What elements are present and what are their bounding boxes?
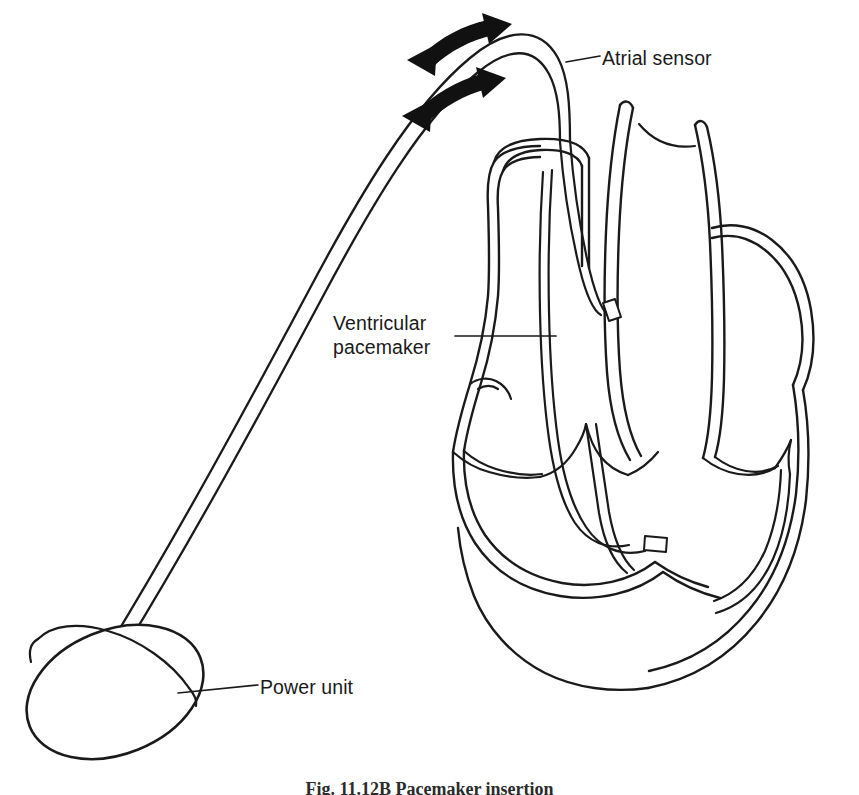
heart-apex [458,528,720,690]
label-ventricular-pacemaker-line2: pacemaker [333,336,430,358]
label-ventricular-pacemaker: Ventricularpacemaker [333,311,430,359]
left-ventricle [648,385,808,688]
pacemaker-line-art [0,0,859,795]
ventricular-electrode-tip [644,536,667,552]
figure-caption: Fig. 11.12B Pacemaker insertion [0,779,859,795]
pacemaker-figure: Atrial sensor Ventricularpacemaker Power… [0,0,859,795]
pulmonary-artery [695,121,724,458]
ventricular-lead-segment [540,170,645,553]
label-atrial-sensor: Atrial sensor [602,46,712,70]
aortic-arch-notch [639,124,695,147]
insertion-arrow-lower [402,67,506,132]
label-power-unit: Power unit [260,675,353,699]
right-atrium-wall [453,146,540,452]
mitral-valve [703,440,791,475]
aorta [605,102,641,460]
left-atrium [712,225,813,390]
label-ventricular-pacemaker-line1: Ventricular [333,312,426,334]
atrial-lead-segment [560,140,611,318]
leader-atrial-sensor [566,56,600,62]
